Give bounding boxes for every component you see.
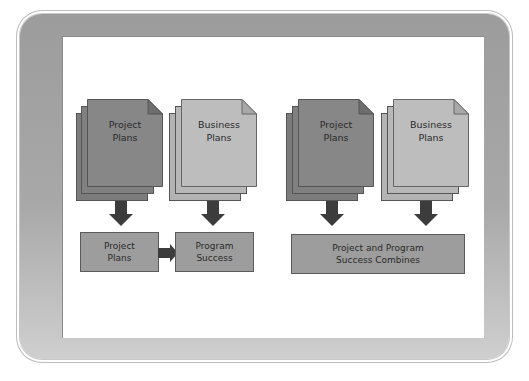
doc-title-line2: Plans bbox=[181, 131, 257, 144]
doc-title-line2: Plans bbox=[298, 131, 374, 144]
doc-title-line2: Plans bbox=[393, 131, 469, 144]
arrow-down-icon bbox=[414, 201, 438, 226]
program-success-box: Program Success bbox=[175, 232, 254, 272]
document-icon: Business Plans bbox=[393, 99, 469, 187]
document-icon: Project Plans bbox=[87, 99, 163, 187]
doc-title-line1: Business bbox=[181, 118, 257, 131]
document-icon: Project Plans bbox=[298, 99, 374, 187]
doc-title-line1: Project bbox=[298, 118, 374, 131]
arrow-down-icon bbox=[201, 201, 225, 226]
doc-title-line1: Business bbox=[393, 118, 469, 131]
document-icon: Business Plans bbox=[181, 99, 257, 187]
doc-title-line1: Project bbox=[87, 118, 163, 131]
combined-success-box: Project and Program Success Combines bbox=[291, 234, 465, 274]
arrow-down-icon bbox=[320, 201, 344, 226]
project-plans-box: Project Plans bbox=[80, 232, 159, 272]
doc-title-line2: Plans bbox=[87, 131, 163, 144]
arrow-down-icon bbox=[109, 201, 133, 226]
